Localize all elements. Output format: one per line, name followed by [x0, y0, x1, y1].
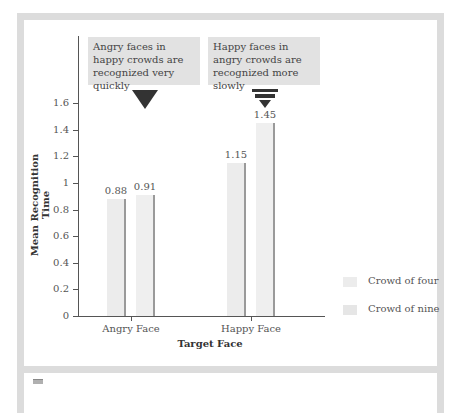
bar-value-label: 0.88: [101, 185, 131, 196]
y-tick-label: 1.6: [39, 97, 69, 109]
y-tick-label: 0.8: [39, 204, 69, 216]
caption-panel: [17, 366, 444, 413]
bar-angry-four: [107, 199, 126, 316]
legend-label-nine: Crowd of nine: [368, 303, 440, 314]
legend-label-four: Crowd of four: [368, 275, 438, 286]
bar-value-label: 1.15: [221, 149, 251, 160]
y-tick-label: 0: [39, 310, 69, 322]
y-tick-label: 1.2: [39, 150, 69, 162]
y-axis: [78, 36, 79, 317]
x-category-label: Angry Face: [91, 323, 171, 334]
y-tick-label: 0.6: [39, 230, 69, 242]
bar-value-label: 0.91: [130, 181, 160, 192]
y-tick-label: 1.4: [39, 124, 69, 136]
legend-swatch-four: [343, 277, 357, 287]
down-arrow-icon: [132, 90, 158, 109]
x-tick: [131, 316, 132, 321]
caption-icon: [33, 379, 43, 384]
y-tick-label: 1: [39, 177, 69, 189]
y-tick-label: 0.4: [39, 257, 69, 269]
x-category-label: Happy Face: [211, 323, 291, 334]
y-tick-label: 0.2: [39, 283, 69, 295]
x-axis-label: Target Face: [150, 338, 270, 349]
bar-angry-nine: [136, 195, 155, 316]
bar-happy-four: [227, 163, 246, 316]
bar-happy-nine: [256, 123, 275, 316]
annotation-happy: Happy faces in angry crowds are recogniz…: [208, 37, 320, 85]
x-axis: [78, 316, 325, 317]
bar-value-label: 1.45: [250, 109, 280, 120]
x-tick: [251, 316, 252, 321]
legend-swatch-nine: [343, 305, 357, 315]
annotation-angry: Angry faces in happy crowds are recogniz…: [88, 37, 200, 85]
